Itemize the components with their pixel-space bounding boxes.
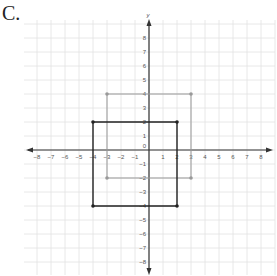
gray-square-vertex: [189, 176, 193, 180]
x-tick-label: 5: [217, 154, 221, 160]
black-square-vertex: [91, 120, 95, 124]
y-tick-label: −7: [139, 245, 147, 251]
y-tick-label: −3: [139, 189, 147, 195]
x-tick-label: 7: [245, 154, 249, 160]
black-square-vertex: [175, 120, 179, 124]
x-axis-left-arrow-icon: [26, 148, 33, 153]
y-axis-label: y: [146, 12, 151, 18]
y-tick-label: −5: [139, 217, 147, 223]
x-tick-label: −5: [76, 154, 84, 160]
x-tick-label: −1: [132, 154, 140, 160]
y-axis-down-arrow-icon: [147, 268, 152, 275]
x-tick-label: −7: [48, 154, 56, 160]
gray-square-vertex: [105, 92, 109, 96]
black-square-vertex: [91, 204, 95, 208]
y-tick-label: −6: [139, 231, 147, 237]
x-tick-label: −8: [34, 154, 42, 160]
gray-square-vertex: [105, 176, 109, 180]
x-tick-label: 6: [231, 154, 235, 160]
y-axis-up-arrow-icon: [147, 19, 152, 26]
coordinate-plane: y−8−7−6−5−4−3−2−11234567887654321−1−2−3−…: [0, 0, 277, 276]
black-square-vertex: [175, 204, 179, 208]
gray-square-vertex: [189, 92, 193, 96]
x-axis-right-arrow-icon: [266, 148, 273, 153]
x-tick-label: −2: [118, 154, 126, 160]
x-tick-label: 1: [161, 154, 165, 160]
origin-label: 0: [143, 143, 147, 149]
y-tick-label: −1: [139, 161, 147, 167]
x-tick-label: 4: [203, 154, 207, 160]
x-tick-label: 8: [259, 154, 263, 160]
y-tick-label: −8: [139, 259, 147, 265]
x-tick-label: −6: [62, 154, 70, 160]
